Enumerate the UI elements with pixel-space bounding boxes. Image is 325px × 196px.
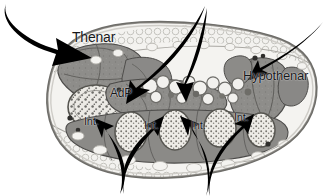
anatomical-figure: Thenar AdP Hypothenar Int. Int. Int. Int…	[0, 0, 325, 196]
arrow-to-int-4	[208, 114, 254, 196]
arrow-to-int-3	[180, 116, 210, 196]
arrow-to-lumbrical	[176, 8, 207, 102]
arrow-to-int-2	[122, 116, 164, 194]
arrow-to-thenar	[5, 4, 92, 66]
arrow-to-adp-left	[126, 6, 205, 104]
arrow-to-hypothenar	[248, 22, 323, 80]
pointer-arrows-layer	[0, 0, 325, 196]
arrow-to-int-1	[94, 118, 125, 194]
